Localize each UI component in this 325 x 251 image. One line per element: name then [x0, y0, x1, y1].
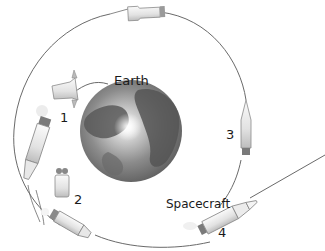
rocket-bottom	[41, 208, 93, 240]
label-step-2: 2	[74, 193, 82, 206]
label-step-3: 3	[226, 128, 234, 141]
rocket-left-ascending	[20, 105, 52, 181]
diagram-canvas	[0, 0, 325, 251]
rocket-top	[110, 5, 165, 21]
label-spacecraft: Spacecraft	[166, 198, 230, 210]
earth-globe	[80, 80, 182, 182]
label-earth: Earth	[114, 74, 149, 87]
spacecraft-launch-diagram: Earth Spacecraft 1 2 3 4	[0, 0, 325, 251]
label-step-4: 4	[218, 226, 226, 239]
rocket-stage-2	[55, 168, 69, 197]
rocket-stage-1	[52, 70, 78, 108]
rocket-stage-3	[241, 100, 251, 155]
label-step-1: 1	[60, 111, 68, 124]
